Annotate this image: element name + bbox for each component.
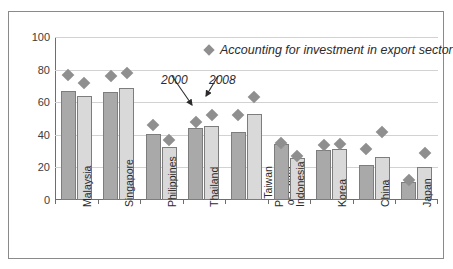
chart-category-group: Indonesia <box>268 37 311 200</box>
bar-2000 <box>274 144 289 200</box>
x-axis-tick <box>395 200 396 204</box>
bar-2000 <box>359 165 374 200</box>
chart-category-group: Philippines <box>140 37 183 200</box>
chart-category-group: Thailand <box>183 37 226 200</box>
chart-category-group: Singapore <box>98 37 141 200</box>
x-axis-tick <box>310 200 311 204</box>
chart-category-group: Japan <box>395 37 438 200</box>
diamond-marker-icon <box>360 143 373 156</box>
x-axis-label-line: Japan <box>422 178 433 207</box>
x-axis-category-label: Singapore <box>124 159 135 207</box>
diamond-marker-icon <box>147 119 160 132</box>
diamond-marker-icon <box>248 91 261 104</box>
diamond-marker-icon <box>317 138 330 151</box>
x-axis-tick <box>353 200 354 204</box>
x-axis-category-label: Korea <box>337 179 348 207</box>
bar-2000 <box>61 91 76 200</box>
y-axis-tick-label: 0 <box>44 195 50 206</box>
y-axis-tick-label: 100 <box>32 32 50 43</box>
diamond-marker-icon <box>206 109 219 122</box>
chart-legend: Accounting for investment in export sect… <box>205 43 453 57</box>
bar-2000 <box>146 134 161 200</box>
x-axis-category-label: China <box>380 180 391 207</box>
x-axis-label-line: Korea <box>337 179 348 207</box>
x-axis-label-line: China <box>380 180 391 207</box>
x-axis-category-label: Philippines <box>167 156 178 207</box>
diamond-marker-icon <box>62 68 75 81</box>
diamond-marker-icon <box>203 44 214 55</box>
bar-2000 <box>103 92 118 200</box>
chart-category-group: Malaysia <box>55 37 98 200</box>
y-axis-tick-label: 80 <box>38 64 50 75</box>
x-axis-category-label: Japan <box>422 178 433 207</box>
chart-category-group: TaiwanProvinceof China <box>225 37 268 200</box>
x-axis-category-label: Indonesia <box>295 161 306 207</box>
x-axis-tick <box>268 200 269 204</box>
x-axis-tick <box>225 200 226 204</box>
y-axis-tick-label: 60 <box>38 97 50 108</box>
callout-label-2008: 2008 <box>209 73 236 87</box>
bar-2000 <box>188 128 203 200</box>
diamond-marker-icon <box>232 109 245 122</box>
y-axis-tick-label: 40 <box>38 129 50 140</box>
x-axis-tick <box>140 200 141 204</box>
diamond-marker-icon <box>104 70 117 83</box>
diamond-marker-icon <box>163 133 176 146</box>
bar-2000 <box>231 132 246 200</box>
x-axis-tick <box>55 200 56 204</box>
chart-frame: 020406080100MalaysiaSingaporePhilippines… <box>8 11 444 259</box>
x-axis-label-line: Philippines <box>167 156 178 207</box>
x-axis-tick <box>183 200 184 204</box>
callout-label-2000: 2000 <box>161 73 188 87</box>
x-axis-label-line: Thailand <box>209 167 220 207</box>
y-axis-tick-label: 20 <box>38 162 50 173</box>
x-axis-label-line: Indonesia <box>295 161 306 207</box>
x-axis-category-label: Malaysia <box>82 166 93 207</box>
diamond-marker-icon <box>376 125 389 138</box>
x-axis-tick <box>437 200 438 204</box>
x-axis-label-line: Malaysia <box>82 166 93 207</box>
diamond-marker-icon <box>190 115 203 128</box>
chart-category-group: Korea <box>310 37 353 200</box>
plot-area: 020406080100MalaysiaSingaporePhilippines… <box>55 37 438 200</box>
x-axis-tick <box>98 200 99 204</box>
x-axis-label-line: Singapore <box>124 159 135 207</box>
diamond-marker-icon <box>78 76 91 89</box>
diamond-marker-icon <box>418 146 431 159</box>
bar-2000 <box>316 150 331 200</box>
legend-label: Accounting for investment in export sect… <box>220 43 453 57</box>
diamond-marker-icon <box>120 67 133 80</box>
bar-2008 <box>247 114 262 200</box>
chart-category-group: China <box>353 37 396 200</box>
x-axis-category-label: Thailand <box>209 167 220 207</box>
